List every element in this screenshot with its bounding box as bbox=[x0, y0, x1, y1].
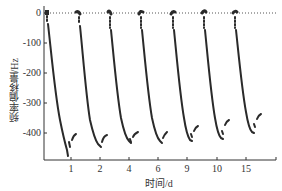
x-tick-label: 6 bbox=[156, 163, 161, 174]
x-tick-label: 2 bbox=[98, 163, 103, 174]
x-tick-label: 4 bbox=[127, 163, 132, 174]
y-tick-labels: 0 -100 -200 -300 -400 bbox=[23, 7, 41, 138]
x-tick-label: 1 bbox=[69, 163, 74, 174]
series-cycle-1 bbox=[45, 10, 76, 156]
y-tick-label: 0 bbox=[36, 7, 41, 18]
x-tick-label: 10 bbox=[212, 163, 222, 174]
series-cycle-7 bbox=[233, 11, 261, 133]
x-tick-labels: 1 2 4 6 9 10 15 bbox=[69, 163, 252, 174]
frequency-shift-chart: 0 -100 -200 -300 -400 1 2 4 6 9 10 15 bbox=[0, 0, 282, 191]
y-axis-label: 频率偏移量/Hz bbox=[8, 58, 22, 122]
y-tick-label: -100 bbox=[23, 37, 41, 48]
y-tick-label: -400 bbox=[23, 127, 41, 138]
y-tick-label: -200 bbox=[23, 67, 41, 78]
y-tick-label: -300 bbox=[23, 97, 41, 108]
x-tick-label: 15 bbox=[241, 163, 251, 174]
data-series bbox=[45, 10, 261, 156]
x-axis-label: 时间/d bbox=[145, 175, 173, 190]
series-cycle-4 bbox=[139, 11, 167, 143]
series-cycle-5 bbox=[171, 12, 198, 141]
series-cycle-6 bbox=[202, 11, 229, 139]
x-tick-label: 9 bbox=[185, 163, 190, 174]
series-cycle-3 bbox=[108, 11, 138, 143]
series-cycle-2 bbox=[76, 12, 107, 147]
